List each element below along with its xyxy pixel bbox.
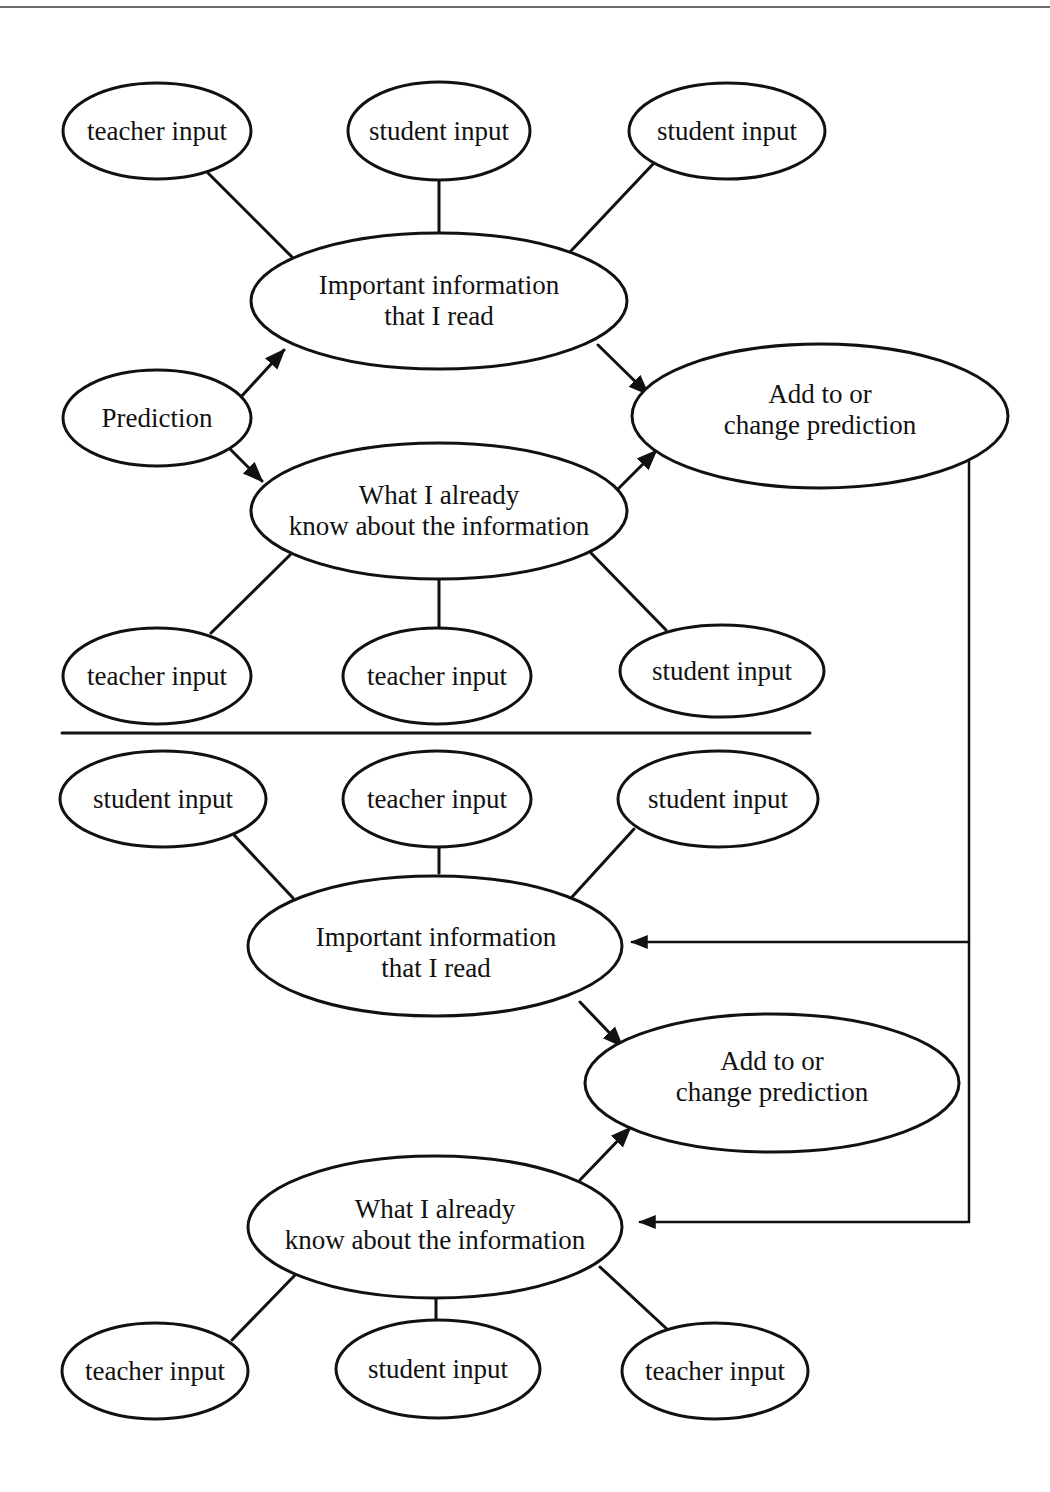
connector-line — [234, 835, 293, 898]
connector-line — [211, 555, 290, 633]
prediction-flow-diagram — [0, 0, 1050, 1492]
connector-line — [232, 1273, 297, 1340]
label-upper-input-5: teacher input — [343, 651, 531, 701]
connector-line — [208, 173, 292, 257]
connector-line — [600, 1267, 668, 1330]
label-lower-input-3: student input — [618, 774, 818, 824]
label-upper-already-know: What I already know about the informatio… — [250, 476, 628, 546]
label-lower-input-4: teacher input — [62, 1346, 248, 1396]
label-lower-input-6: teacher input — [622, 1346, 808, 1396]
arrow-already-know-lower-to-add-change-lower — [580, 1128, 630, 1180]
label-upper-input-2: student input — [348, 106, 530, 156]
label-upper-important-information: Important information that I read — [252, 266, 626, 336]
label-upper-input-4: teacher input — [63, 651, 251, 701]
label-upper-input-1: teacher input — [63, 106, 251, 156]
arrow-prediction-to-important — [240, 350, 284, 398]
label-prediction: Prediction — [63, 393, 251, 443]
label-lower-important-information: Important information that I read — [249, 918, 623, 988]
label-lower-add-change-prediction: Add to or change prediction — [587, 1041, 957, 1113]
connector-line — [572, 829, 634, 897]
label-lower-input-5: student input — [336, 1344, 540, 1394]
arrow-important-lower-to-add-change-lower — [580, 1002, 622, 1046]
label-upper-input-3: student input — [629, 106, 825, 156]
label-lower-input-2: teacher input — [343, 774, 531, 824]
connector-line — [591, 553, 666, 630]
label-upper-add-change-prediction: Add to or change prediction — [636, 374, 1004, 446]
connector-line — [570, 163, 654, 252]
label-lower-already-know: What I already know about the informatio… — [248, 1190, 622, 1260]
label-upper-input-6: student input — [620, 646, 824, 696]
label-lower-input-1: student input — [60, 774, 266, 824]
